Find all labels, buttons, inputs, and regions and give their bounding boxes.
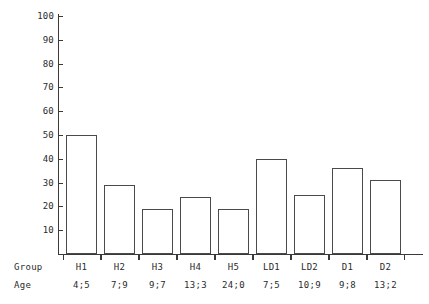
y-axis-tick-label: 100: [24, 12, 54, 21]
age-cell: 13;3: [174, 280, 217, 290]
bar-h3: [142, 209, 173, 254]
age-cell: 13;2: [364, 280, 407, 290]
row-header-age: Age: [14, 280, 31, 290]
group-cell: H4: [174, 262, 217, 272]
y-axis-tick-label-wrap: 90: [18, 36, 54, 45]
bar-ld2: [294, 195, 325, 255]
bar-chart: 100908070605040302010 Group Age H14;5H27…: [0, 0, 429, 304]
x-axis-line: [58, 254, 423, 255]
y-axis-tick-label: 60: [24, 107, 54, 116]
y-axis-tick-label: 40: [24, 155, 54, 164]
age-cell: 24;0: [212, 280, 255, 290]
age-cell: 4;5: [60, 280, 103, 290]
bar-d1: [332, 168, 363, 254]
group-cell: LD2: [288, 262, 331, 272]
group-cell: D2: [364, 262, 407, 272]
x-axis-tick: [291, 255, 292, 260]
x-axis-tick: [367, 255, 368, 260]
age-cell: 10;9: [288, 280, 331, 290]
y-axis-tick-label: 90: [24, 36, 54, 45]
bars-layer: [58, 14, 423, 254]
y-axis-tick-label-wrap: 70: [18, 83, 54, 92]
y-axis-tick-label: 10: [24, 226, 54, 235]
bar-h4: [180, 197, 211, 254]
y-axis-tick-label-wrap: 80: [18, 60, 54, 69]
y-axis-tick-label: 70: [24, 83, 54, 92]
x-axis-tick: [215, 255, 216, 260]
x-axis-tick: [253, 255, 254, 260]
y-axis-tick-label-wrap: 20: [18, 202, 54, 211]
y-axis-tick-label-wrap: 50: [18, 131, 54, 140]
age-cell: 9;7: [136, 280, 179, 290]
y-axis-tick-label-wrap: 30: [18, 179, 54, 188]
y-axis-tick-label-wrap: 10: [18, 226, 54, 235]
bar-h2: [104, 185, 135, 254]
y-axis-tick-label: 20: [24, 202, 54, 211]
age-cell: 9;8: [326, 280, 369, 290]
bar-h5: [218, 209, 249, 254]
x-axis-tick: [404, 255, 405, 260]
y-axis-tick-label: 80: [24, 60, 54, 69]
x-axis-tick: [101, 255, 102, 260]
y-axis-tick-label: 50: [24, 131, 54, 140]
y-axis-tick-label: 30: [24, 179, 54, 188]
group-cell: H1: [60, 262, 103, 272]
bar-ld1: [256, 159, 287, 254]
age-cell: 7;5: [250, 280, 293, 290]
row-header-group: Group: [14, 262, 43, 272]
x-axis-tick: [177, 255, 178, 260]
x-axis-tick: [139, 255, 140, 260]
group-cell: H2: [98, 262, 141, 272]
x-axis-tick: [329, 255, 330, 260]
y-axis-tick-label-wrap: 60: [18, 107, 54, 116]
group-cell: D1: [326, 262, 369, 272]
group-cell: LD1: [250, 262, 293, 272]
bar-d2: [370, 180, 401, 254]
y-axis-tick-label-wrap: 40: [18, 155, 54, 164]
group-cell: H5: [212, 262, 255, 272]
group-cell: H3: [136, 262, 179, 272]
x-axis-tick: [63, 255, 64, 260]
y-axis-tick-label-wrap: 100: [18, 12, 54, 21]
age-cell: 7;9: [98, 280, 141, 290]
bar-h1: [66, 135, 97, 254]
